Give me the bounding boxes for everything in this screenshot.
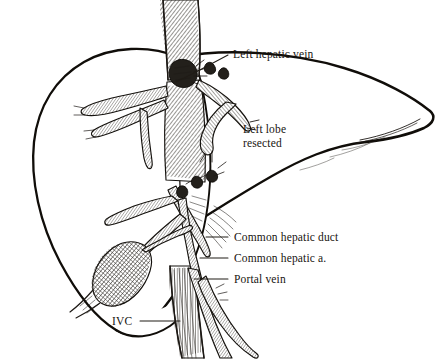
label-ivc: IVC bbox=[112, 315, 132, 327]
label-left-hepatic-vein: Left hepatic vein bbox=[233, 48, 314, 61]
label-common-hepatic-duct: Common hepatic duct bbox=[234, 231, 339, 244]
liver-resection-illustration: Left hepatic vein Left lobe resected Com… bbox=[0, 0, 448, 361]
label-left-lobe-resected-line1: Left lobe bbox=[243, 123, 286, 135]
label-common-hepatic-artery: Common hepatic a. bbox=[234, 252, 326, 265]
label-portal-vein: Portal vein bbox=[234, 273, 286, 285]
label-left-lobe-resected-line2: resected bbox=[243, 137, 282, 149]
illustration-canvas: Left hepatic vein Left lobe resected Com… bbox=[0, 0, 448, 361]
